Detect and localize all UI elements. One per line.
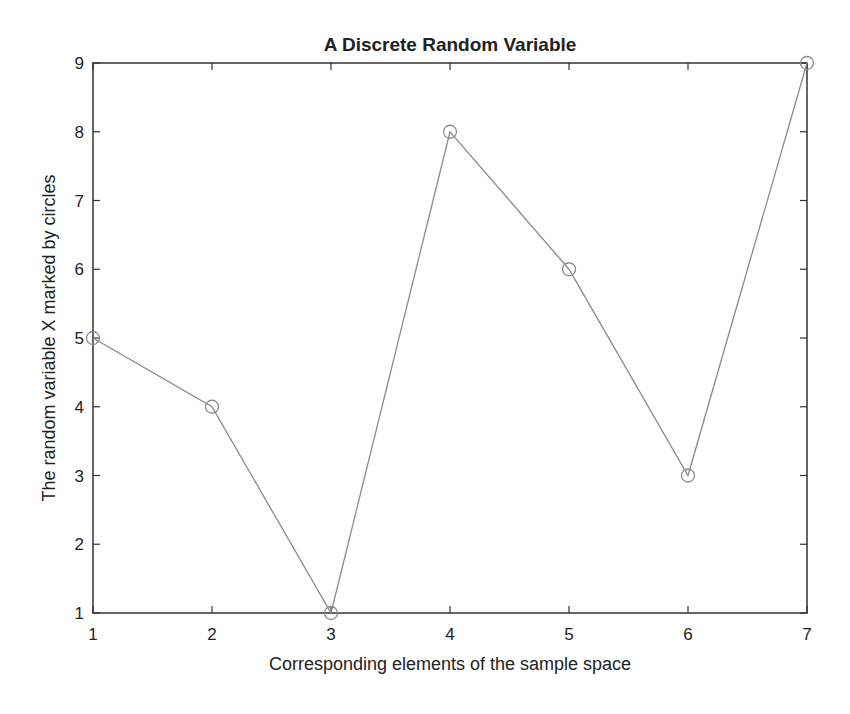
- x-tick-label: 4: [445, 625, 454, 644]
- x-tick-label: 3: [326, 625, 335, 644]
- plot-frame: [93, 63, 807, 613]
- x-tick-label: 7: [802, 625, 811, 644]
- y-tick-label: 5: [75, 329, 84, 348]
- y-tick-label: 7: [75, 192, 84, 211]
- data-series: [87, 57, 814, 620]
- axes: 1234567123456789: [75, 54, 812, 644]
- x-tick-label: 2: [207, 625, 216, 644]
- y-tick-label: 6: [75, 260, 84, 279]
- x-tick-label: 6: [683, 625, 692, 644]
- series-line: [93, 63, 807, 613]
- x-tick-label: 5: [564, 625, 573, 644]
- y-tick-label: 2: [75, 535, 84, 554]
- line-chart: A Discrete Random Variable 1234567123456…: [0, 0, 850, 714]
- y-tick-label: 9: [75, 54, 84, 73]
- y-tick-label: 1: [75, 604, 84, 623]
- x-axis-label: Corresponding elements of the sample spa…: [269, 654, 631, 674]
- y-tick-label: 8: [75, 123, 84, 142]
- x-tick-label: 1: [88, 625, 97, 644]
- y-axis-label: The random variable X marked by circles: [39, 174, 59, 501]
- y-tick-label: 4: [75, 398, 84, 417]
- chart-title: A Discrete Random Variable: [324, 34, 577, 55]
- y-tick-label: 3: [75, 467, 84, 486]
